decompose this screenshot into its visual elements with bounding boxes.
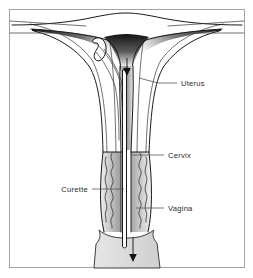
uterine-body-left-outline: [34, 31, 104, 232]
label-curette-text: Curette: [61, 185, 88, 194]
endometrial-line-right: [137, 44, 143, 152]
uterine-curettage-diagram: Uterus Cervix Curette Vagina: [0, 0, 253, 278]
label-uterus-text: Uterus: [181, 79, 205, 88]
figure-root: Uterus Cervix Curette Vagina: [0, 0, 253, 278]
curette-shaft: [123, 70, 127, 248]
label-vagina-text: Vagina: [168, 204, 193, 213]
label-uterus: Uterus: [139, 78, 205, 88]
label-cervix-text: Cervix: [168, 151, 191, 160]
endometrial-line-left: [110, 44, 116, 152]
uterine-body-right-outline: [148, 31, 219, 232]
